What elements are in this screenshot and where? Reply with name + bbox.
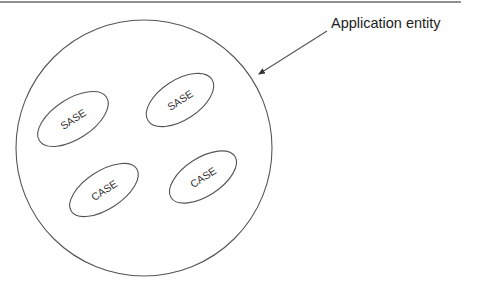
application-entity-label: Application entity: [331, 15, 441, 31]
case-element-2: CASE: [161, 140, 245, 213]
pointer-arrow: [259, 31, 327, 74]
case-label: CASE: [89, 177, 120, 203]
application-entity-diagram: Application entity SASE SASE CASE CASE: [0, 0, 480, 285]
case-element-1: CASE: [61, 153, 147, 227]
sase-element-2: SASE: [137, 63, 223, 138]
sase-element-1: SASE: [29, 80, 118, 157]
sase-label: SASE: [58, 106, 88, 131]
case-label: CASE: [188, 164, 219, 190]
sase-label: SASE: [165, 87, 195, 112]
application-entity-circle: [16, 20, 272, 276]
